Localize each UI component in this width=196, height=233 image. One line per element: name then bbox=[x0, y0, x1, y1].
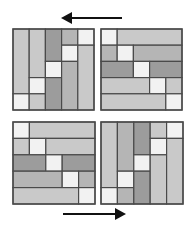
patch-dark bbox=[13, 155, 46, 171]
patch-white bbox=[101, 29, 117, 45]
patch-light bbox=[167, 138, 183, 204]
patch-dark bbox=[134, 122, 150, 155]
patch-mid bbox=[62, 61, 78, 110]
patch-dark bbox=[62, 155, 95, 171]
patch-white bbox=[134, 155, 150, 171]
patch-white bbox=[62, 45, 78, 61]
patch-white bbox=[117, 171, 133, 187]
patch-mid bbox=[101, 45, 117, 61]
patch-white bbox=[150, 78, 166, 94]
patch-white bbox=[13, 122, 29, 138]
patch-white bbox=[166, 94, 182, 110]
patch-mid bbox=[13, 171, 62, 187]
arrow-left-icon bbox=[61, 12, 122, 24]
patch-white bbox=[150, 138, 166, 154]
patch-light bbox=[78, 45, 94, 110]
quilt-diagram bbox=[0, 0, 196, 233]
patch-mid bbox=[117, 188, 133, 204]
patch-white bbox=[101, 188, 117, 204]
patch-dark bbox=[45, 78, 61, 110]
patch-white bbox=[79, 188, 95, 204]
patch-light bbox=[117, 29, 182, 45]
patch-white bbox=[78, 29, 94, 45]
patch-mid bbox=[62, 29, 78, 45]
patch-light bbox=[101, 94, 166, 110]
patch-light bbox=[166, 78, 182, 94]
patch-white bbox=[29, 78, 45, 94]
panel-bottom-right bbox=[101, 122, 183, 204]
panel-bottom-left bbox=[13, 122, 95, 204]
patch-white bbox=[29, 138, 45, 154]
panels bbox=[13, 29, 183, 204]
patch-light bbox=[150, 155, 166, 204]
patch-white bbox=[46, 155, 62, 171]
patch-mid bbox=[133, 45, 182, 61]
patch-dark bbox=[150, 61, 182, 77]
patch-white bbox=[133, 61, 149, 77]
patch-light bbox=[13, 138, 29, 154]
patch-mid bbox=[117, 122, 133, 171]
patch-mid bbox=[79, 171, 95, 187]
patch-white bbox=[167, 122, 183, 138]
patch-light bbox=[150, 122, 166, 138]
patch-white bbox=[117, 45, 133, 61]
panel-top-left bbox=[13, 29, 94, 110]
panel-top-right bbox=[101, 29, 182, 110]
patch-light bbox=[46, 138, 95, 154]
patch-light bbox=[101, 78, 150, 94]
patch-white bbox=[13, 94, 29, 110]
patch-light bbox=[101, 122, 117, 188]
patch-light bbox=[13, 188, 79, 204]
patch-light bbox=[29, 122, 95, 138]
arrow-right-icon bbox=[63, 208, 126, 220]
patch-white bbox=[62, 171, 78, 187]
patch-light bbox=[13, 29, 29, 94]
patch-white bbox=[45, 61, 61, 77]
patch-dark bbox=[134, 171, 150, 204]
patch-dark bbox=[101, 61, 133, 77]
patch-light bbox=[29, 94, 45, 110]
patch-light bbox=[29, 29, 45, 78]
patch-dark bbox=[45, 29, 61, 61]
